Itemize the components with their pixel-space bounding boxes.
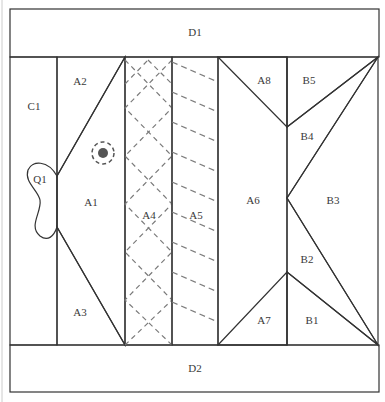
crosshatch-quilting [125, 60, 172, 345]
label-A8: A8 [257, 74, 271, 86]
piece-A5 [172, 57, 218, 345]
label-B2: B2 [301, 253, 314, 265]
piece-A8 [218, 57, 287, 127]
label-Q1: Q1 [33, 173, 46, 185]
eye-dot-icon [98, 148, 108, 158]
label-B5: B5 [303, 74, 316, 86]
label-B4: B4 [301, 130, 314, 142]
diagonal-quilting [172, 62, 218, 322]
fish-quilt-diagram: D1 D2 C1 Q1 A2 A1 A3 A4 A5 A6 A8 B5 B4 B… [0, 0, 385, 402]
label-A7: A7 [257, 314, 271, 326]
label-C1: C1 [28, 100, 41, 112]
label-B1: B1 [306, 314, 319, 326]
label-A3: A3 [73, 306, 87, 318]
piece-B2 [287, 198, 378, 345]
label-A5: A5 [189, 209, 203, 221]
label-D2: D2 [188, 362, 201, 374]
label-D1: D1 [188, 26, 201, 38]
label-B3: B3 [327, 194, 340, 206]
label-A6: A6 [246, 194, 260, 206]
label-A2: A2 [73, 75, 86, 87]
label-A1: A1 [84, 196, 97, 208]
label-A4: A4 [142, 209, 156, 221]
piece-B1 [287, 272, 378, 345]
piece-A7 [218, 272, 287, 345]
